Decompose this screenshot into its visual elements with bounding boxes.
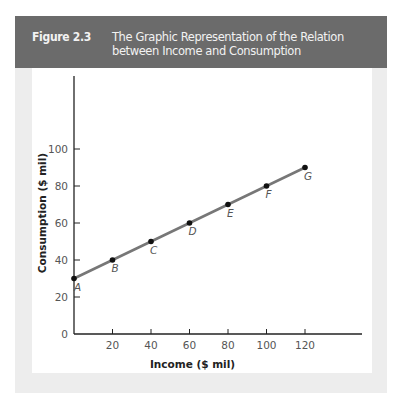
point-label: C (150, 244, 158, 256)
x-tick-label: 60 (183, 339, 196, 351)
y-axis-label: Consumption ($ mil) (36, 153, 48, 273)
point-label: D (189, 225, 197, 237)
point-label: B (112, 262, 119, 274)
y-tick-label: 20 (55, 291, 68, 303)
point-label: E (227, 207, 234, 219)
point-label: G (304, 170, 312, 182)
y-tick-label: 80 (55, 180, 68, 192)
x-tick-label: 120 (295, 339, 315, 351)
point-label: A (73, 281, 81, 293)
x-tick-label: 20 (106, 339, 119, 351)
x-axis-label: Income ($ mil) (150, 358, 235, 370)
x-tick-label: 40 (144, 339, 157, 351)
x-tick-label: 100 (256, 339, 276, 351)
y-tick-label: 100 (48, 143, 68, 155)
x-tick-label: 80 (221, 339, 234, 351)
y-tick-label: 0 (61, 328, 68, 340)
y-tick-label: 60 (55, 217, 68, 229)
line-chart: 20406080100120020406080100ABCDEFGIncome … (0, 0, 394, 404)
y-tick-label: 40 (55, 254, 68, 266)
point-label: F (266, 188, 273, 200)
